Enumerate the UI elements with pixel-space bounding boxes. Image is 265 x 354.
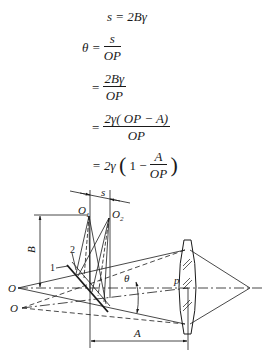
label-b: B <box>25 246 37 253</box>
ray-focus-bottom <box>190 288 250 324</box>
label-2: 2 <box>70 244 75 255</box>
label-p: p <box>173 274 180 286</box>
label-o1: O1 <box>78 204 89 219</box>
ray-upper-o-bottom <box>18 288 185 324</box>
theta-arc <box>136 282 138 313</box>
label-1: 1 <box>50 262 55 273</box>
ray-lower-o-top <box>22 250 185 308</box>
label-a: A <box>133 327 141 339</box>
ray-lower-o-bottom <box>22 308 185 324</box>
ray-focus-top <box>190 250 250 288</box>
optical-diagram: s O1 O2 B 2 1 O O θ p A <box>0 0 265 354</box>
label-o-upper: O <box>8 282 16 294</box>
lens <box>179 240 196 334</box>
leader-1 <box>56 266 68 268</box>
label-theta: θ <box>124 272 130 284</box>
label-s: s <box>101 186 105 198</box>
leader-2 <box>72 253 76 270</box>
s-dimension-line <box>70 191 130 203</box>
lens-hatching <box>183 259 192 311</box>
label-o2: O2 <box>112 208 124 223</box>
label-o-lower: O <box>10 302 18 314</box>
